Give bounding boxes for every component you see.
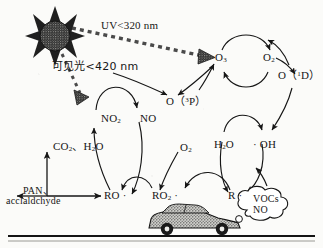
species-o3p: O（3P）: [166, 96, 207, 107]
uv-beam-arrow: [72, 28, 215, 64]
ground-line-icon: [8, 236, 315, 241]
product-acetaldehyde-line2: acclaldchyde: [6, 196, 61, 206]
diagram-vector-layer: [0, 0, 323, 248]
species-alkoxy-radical: RO ·: [104, 190, 127, 201]
o1d-to-oh-arrow: [272, 88, 292, 130]
emission-no-label: NO: [253, 205, 268, 215]
species-o2-middle: O2: [180, 142, 192, 154]
species-no: NO: [140, 113, 156, 124]
species-alkyl-radical: R ·: [228, 190, 242, 201]
uv-wavelength-label: UV<320 nm: [101, 20, 158, 31]
species-no2: NO2: [101, 113, 121, 125]
species-o3-upper: O3: [215, 52, 227, 64]
visible-light-label: 可见光<420 nm: [52, 61, 138, 72]
species-hydroxyl-radical: · OH: [253, 139, 276, 150]
species-o2-upper: O2: [263, 52, 275, 64]
emission-vocs-label: VOCs: [253, 194, 279, 204]
species-peroxy-radical: RO2 ·: [152, 190, 178, 202]
sun-icon: [25, 6, 85, 66]
nox-cycle-arrows: [94, 73, 167, 194]
species-co2-h2o: CO2、H2O: [53, 141, 104, 153]
car-icon: [149, 204, 240, 235]
ozone-cycle-arrows: [178, 35, 295, 95]
species-o1d: O（1D）: [278, 70, 320, 81]
species-h2o: H2O: [214, 139, 234, 151]
peroxy-radical-arrows: [122, 152, 230, 190]
smog-diagram-figure: UV<320 nm 可见光<420 nm O3 O2 O（1D） O（3P） N…: [0, 0, 323, 248]
hydroxyl-cycle-arrows: [220, 115, 263, 192]
